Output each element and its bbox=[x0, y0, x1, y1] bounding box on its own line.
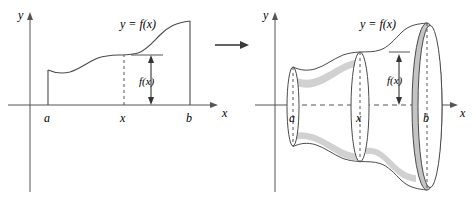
revolution-figure: y x y = f(x) f(x) a x bbox=[0, 0, 476, 207]
left-y-axis-label: y bbox=[17, 8, 24, 22]
transition-arrow bbox=[215, 41, 249, 49]
right-tick-a: a bbox=[289, 111, 295, 125]
disk-at-b-inner-face bbox=[418, 26, 442, 188]
upper-highlight-band bbox=[297, 59, 360, 87]
right-x-axis-label: x bbox=[459, 106, 466, 120]
right-height-label: f(x) bbox=[387, 74, 403, 87]
left-tick-x: x bbox=[119, 111, 126, 125]
right-curve-label: y = f(x) bbox=[359, 17, 396, 31]
left-tick-b: b bbox=[186, 111, 192, 125]
lower-left-highlight-band bbox=[295, 132, 359, 161]
left-y-axis bbox=[27, 12, 33, 192]
solid-body bbox=[287, 23, 442, 190]
left-curve-label: y = f(x) bbox=[119, 17, 156, 31]
left-x-axis bbox=[8, 102, 218, 108]
left-x-axis-label: x bbox=[221, 106, 228, 120]
figure-canvas: y x y = f(x) f(x) a x bbox=[0, 0, 476, 207]
left-panel: y x y = f(x) f(x) a x bbox=[8, 8, 228, 192]
right-y-axis bbox=[272, 12, 278, 192]
right-y-axis-label: y bbox=[262, 8, 269, 22]
left-function-curve bbox=[48, 21, 190, 73]
right-tick-b: b bbox=[423, 111, 429, 125]
left-height-label: f(x) bbox=[139, 75, 155, 88]
lower-right-highlight-band bbox=[366, 148, 416, 182]
right-tick-x: x bbox=[355, 111, 362, 125]
left-tick-a: a bbox=[44, 111, 50, 125]
right-panel: y x bbox=[255, 8, 466, 192]
